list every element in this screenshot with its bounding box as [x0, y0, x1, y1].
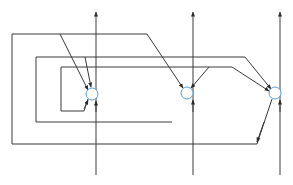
flow-diagram [0, 0, 293, 185]
second-to-left-node-wire [85, 57, 91, 87]
node-left [86, 88, 98, 100]
node-middle [181, 87, 193, 99]
node-right [269, 87, 281, 99]
outer-loop-wire [12, 34, 272, 144]
inner-to-middle-node-wire [191, 67, 209, 88]
outer-loop-return-arrow [257, 122, 264, 142]
outer-to-left-node-wire [60, 34, 88, 90]
inner-loop-to-left-node-arrow [84, 100, 88, 109]
